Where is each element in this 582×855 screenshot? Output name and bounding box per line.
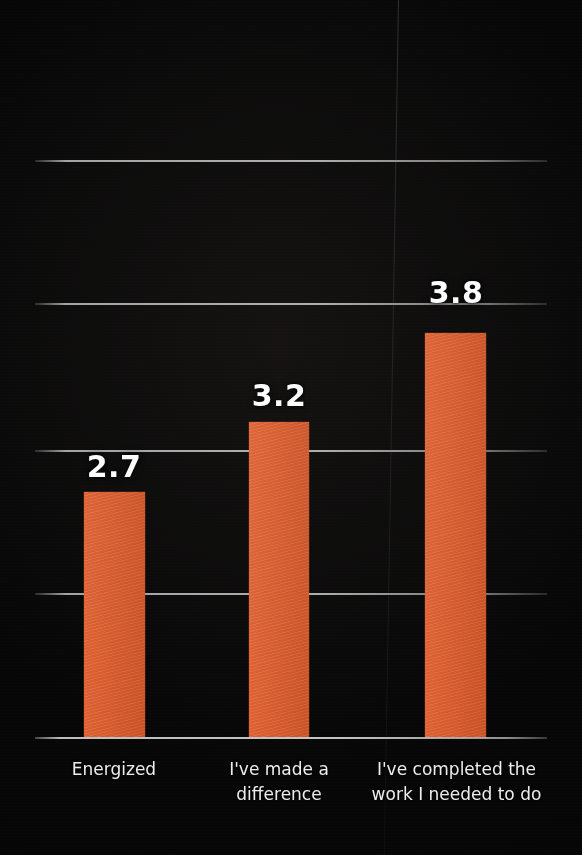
category-label-line: I've completed the xyxy=(349,757,564,782)
slide-canvas: 2.7 3.2 3.8 Energized I've made a differ… xyxy=(0,0,582,855)
bar-made-a-difference xyxy=(249,422,309,738)
bar-completed-work xyxy=(425,333,486,738)
category-label-completed-work: I've completed the work I needed to do xyxy=(349,757,564,807)
value-label-energized: 2.7 xyxy=(64,452,164,482)
gridline-4 xyxy=(35,160,547,162)
category-axis-line xyxy=(35,737,547,739)
projector-seam-artifact xyxy=(398,0,414,855)
category-label-line: work I needed to do xyxy=(349,782,564,807)
value-label-completed-work: 3.8 xyxy=(406,278,506,308)
value-label-made-a-difference: 3.2 xyxy=(229,381,329,411)
bar-energized xyxy=(84,492,145,738)
